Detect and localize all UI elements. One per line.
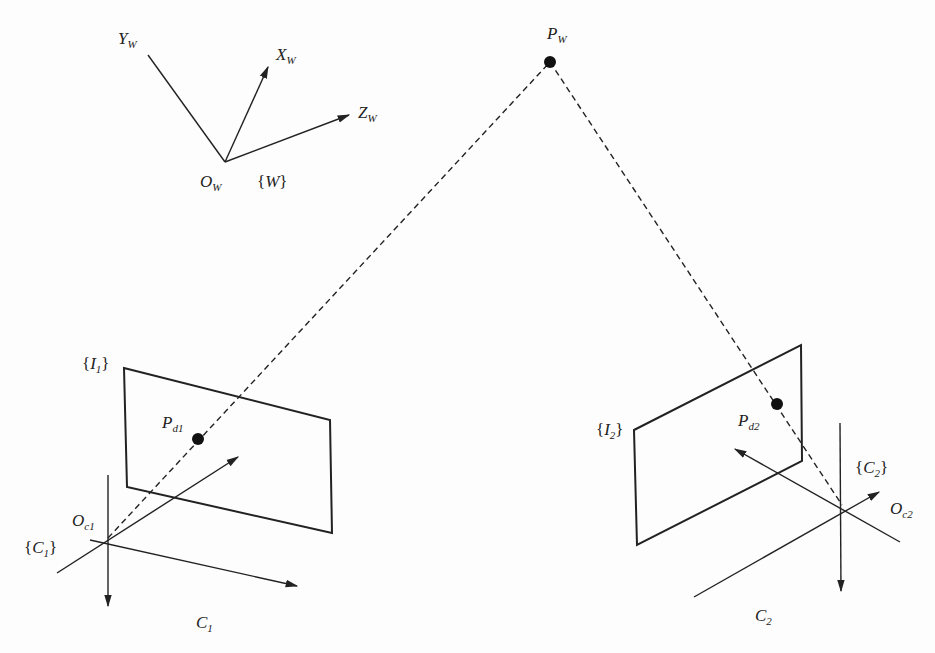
- camera2-origin-label: Oc2: [890, 500, 913, 520]
- world-point-label: PW: [547, 25, 567, 45]
- camera2-frame-label: {C2}: [855, 459, 888, 479]
- diagram-lines: [0, 0, 935, 653]
- world-y-label: YW: [118, 30, 137, 50]
- camera2-axis-down: [840, 423, 841, 591]
- camera1-frame-label: {C1}: [24, 539, 57, 559]
- stereo-geometry-diagram: YW XW ZW OW {W} PW {I1} Pd1 Oc1 {C1} C1 …: [0, 0, 935, 653]
- world-x-label: XW: [276, 46, 296, 66]
- projected-point-1-dot: [192, 433, 204, 445]
- camera1-origin-label: Oc1: [72, 512, 95, 532]
- projected-point-2-label: Pd2: [738, 412, 759, 432]
- world-point-dot: [544, 56, 556, 68]
- image-plane-2: [634, 345, 802, 545]
- projected-point-2-dot: [771, 398, 783, 410]
- world-y-axis: [148, 55, 225, 162]
- projection-ray-1: [108, 62, 550, 538]
- camera2-axis-right: [694, 492, 879, 597]
- camera1-label: C1: [196, 614, 213, 634]
- projection-ray-2: [550, 62, 842, 505]
- world-origin-label: OW: [200, 173, 221, 193]
- image-plane-1: [124, 368, 332, 533]
- camera1-axis-right: [90, 540, 297, 586]
- world-frame-label: {W}: [257, 173, 288, 190]
- image-plane-2-label: {I2}: [596, 421, 624, 441]
- image-plane-1-label: {I1}: [82, 355, 110, 375]
- projected-point-1-label: Pd1: [162, 414, 183, 434]
- world-z-label: ZW: [358, 104, 377, 124]
- camera2-label: C2: [755, 607, 772, 627]
